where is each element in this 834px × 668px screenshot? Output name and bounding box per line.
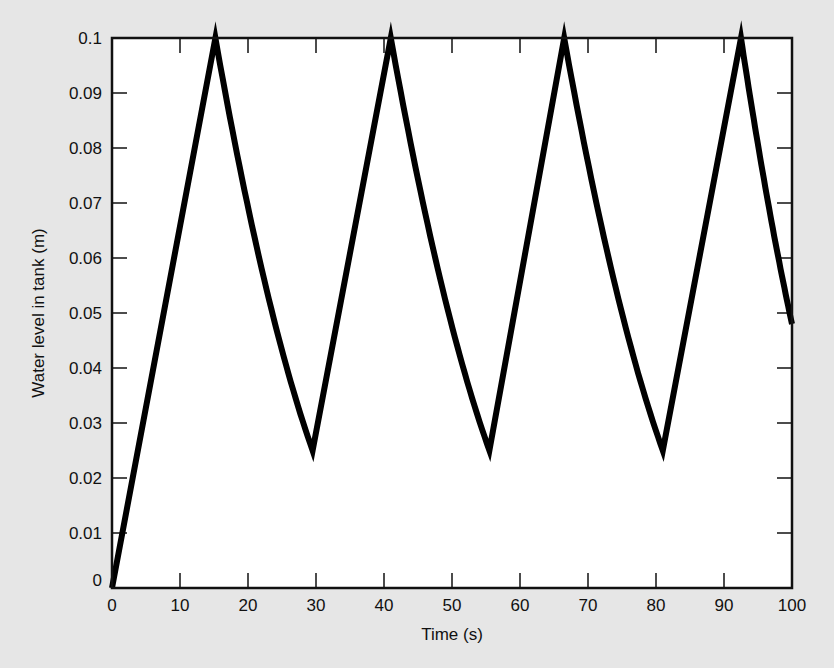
x-tick-label: 90 [715,596,734,615]
y-tick-label: 0.09 [69,84,102,103]
y-tick-label: 0.08 [69,139,102,158]
x-tick-label: 100 [778,596,806,615]
water-level-chart: 0102030405060708090100 00.010.020.030.04… [0,0,834,668]
y-tick-label: 0.1 [78,29,102,48]
y-tick-label: 0.04 [69,359,102,378]
x-tick-label: 70 [579,596,598,615]
x-tick-label: 50 [443,596,462,615]
x-axis-label: Time (s) [421,625,483,644]
y-tick-label: 0.07 [69,194,102,213]
y-axis-label: Water level in tank (m) [29,228,48,397]
x-tick-label: 80 [647,596,666,615]
y-tick-label: 0 [93,571,102,590]
y-tick-label: 0.05 [69,304,102,323]
y-tick-label: 0.03 [69,414,102,433]
x-tick-label: 40 [375,596,394,615]
x-tick-labels: 0102030405060708090100 [107,596,806,615]
x-tick-label: 30 [307,596,326,615]
y-tick-label: 0.02 [69,469,102,488]
x-tick-label: 10 [171,596,190,615]
x-tick-label: 20 [239,596,258,615]
x-tick-label: 60 [511,596,530,615]
y-tick-label: 0.01 [69,524,102,543]
y-tick-labels: 00.010.020.030.040.050.060.070.080.090.1 [69,29,102,590]
y-tick-label: 0.06 [69,249,102,268]
x-tick-label: 0 [107,596,116,615]
